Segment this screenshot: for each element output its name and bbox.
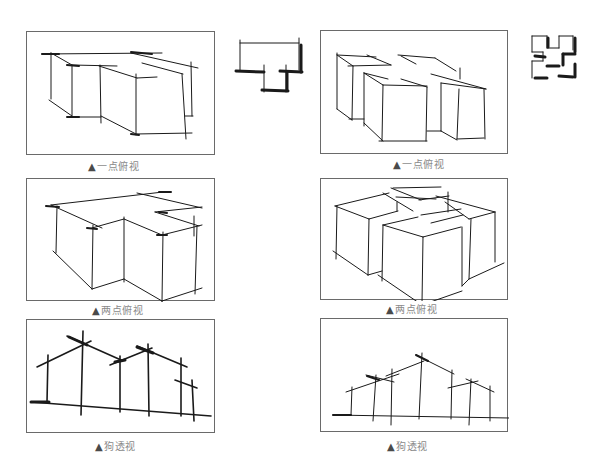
figure-caption-3: ▲两点俯视: [92, 302, 143, 317]
caption-text: 一点俯视: [97, 161, 139, 172]
triangle-marker-icon: ▲: [386, 304, 394, 315]
sketch-dog-eye-perspective-bold: [27, 320, 216, 434]
sketch-two-point-aerial-l-shape: [27, 179, 216, 302]
triangle-marker-icon: ▲: [88, 161, 96, 172]
caption-text: 两点俯视: [395, 304, 437, 315]
cross-shape-plan-icon: [527, 30, 587, 85]
figure-caption-5: ▲狗透视: [95, 438, 136, 453]
figure-dog-eye-perspective-1: [26, 319, 215, 433]
triangle-marker-icon: ▲: [95, 441, 103, 452]
figure-two-point-aerial-2: [320, 178, 508, 300]
figure-caption-1: ▲一点俯视: [88, 158, 139, 173]
caption-text: 两点俯视: [101, 305, 143, 316]
caption-text: 狗透视: [104, 441, 136, 452]
figure-one-point-aerial-1: [26, 31, 215, 155]
l-shape-plan-icon: [232, 30, 307, 95]
triangle-marker-icon: ▲: [387, 441, 395, 452]
figure-caption-6: ▲狗透视: [387, 438, 428, 453]
figure-one-point-aerial-2: [320, 30, 508, 154]
caption-text: 一点俯视: [402, 159, 444, 170]
sketch-dog-eye-perspective-light: [321, 319, 509, 433]
sketch-one-point-aerial-l-shape: [27, 32, 216, 156]
figure-two-point-aerial-1: [26, 178, 215, 301]
plan-sketch-cross-shape: [527, 30, 587, 85]
sketch-two-point-aerial-cross-shape: [321, 179, 509, 301]
figure-dog-eye-perspective-2: [320, 318, 508, 432]
triangle-marker-icon: ▲: [92, 305, 100, 316]
plan-sketch-l-shape: [232, 30, 307, 95]
triangle-marker-icon: ▲: [393, 159, 401, 170]
figure-caption-4: ▲两点俯视: [386, 301, 437, 316]
sketch-one-point-aerial-cross-shape: [321, 31, 509, 155]
figure-caption-2: ▲一点俯视: [393, 156, 444, 171]
caption-text: 狗透视: [396, 441, 428, 452]
